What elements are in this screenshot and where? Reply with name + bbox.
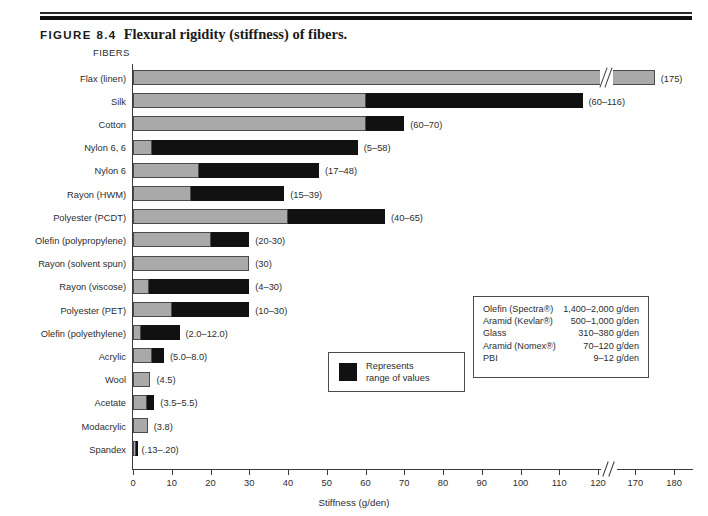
bar-category-label: Spandex [89,445,126,455]
bar-track [133,418,148,433]
bar-row: Flax (linen)(175) [133,67,693,90]
bar-break-icon [600,68,613,87]
bar-segment-base [133,93,366,108]
bar-track [133,209,385,224]
bar-segment-base [133,418,148,433]
x-axis-tick-label: 50 [322,478,332,488]
table-cell-value: 70–120 g/den [559,340,639,352]
x-axis-tick [674,469,675,475]
bar-segment-range [199,163,319,178]
bar-category-label: Acrylic [99,352,126,362]
bar-category-label: Nylon 6, 6 [84,143,126,153]
bar-segment-range [147,395,155,410]
bar-segment-base [133,302,172,317]
table-cell-name: Aramid (Kevlar®) [483,315,559,327]
bar-segment-range [191,186,284,201]
bar-track [133,163,319,178]
bar-segment-range [136,441,138,456]
bar-category-label: Olefin (polyethylene) [41,329,126,339]
table-cell-name: PBI [483,352,559,364]
x-axis-tick-label: 180 [666,478,682,488]
bar-category-label: Rayon (HWM) [67,190,126,200]
bar-track [133,395,154,410]
bar-track [133,70,655,85]
legend-box: Represents range of values [328,352,465,392]
bar-row: Polyester (PCDT)(40–65) [133,206,693,229]
bar-value-label: (17–48) [325,166,357,176]
bar-value-label: (20-30) [255,236,285,246]
bar-value-label: (4.5) [156,375,175,385]
x-axis-tick-label: 110 [552,478,567,488]
table-cell-value: 1,400–2,000 g/den [559,303,639,315]
x-axis-tick [249,469,250,475]
bar-segment-range [172,302,250,317]
bar-row: Cotton(60–70) [133,113,693,136]
bar-segment-base [133,232,211,247]
x-axis-tick [172,469,173,475]
table-row: Glass310–380 g/den [483,327,639,339]
bar-row: Rayon (solvent spun)(30) [133,253,693,276]
bar-segment-base [133,209,288,224]
bar-value-label: (10–30) [255,306,287,316]
bar-row: Olefin (polypropylene)(20-30) [133,229,693,252]
table-cell-value: 310–380 g/den [559,327,639,339]
bar-category-label: Nylon 6 [94,166,126,176]
legend-text: Represents range of values [366,360,430,384]
table-cell-value: 500–1,000 g/den [559,315,639,327]
bar-category-label: Acetate [94,398,126,408]
bar-row: Rayon (HWM)(15–39) [133,183,693,206]
bar-segment-range [152,140,357,155]
bar-category-label: Rayon (solvent spun) [38,259,126,269]
legend-line-1: Represents [366,360,430,372]
bar-category-label: Silk [111,97,126,107]
bar-track [133,441,136,456]
bar-value-label: (30) [255,259,272,269]
x-axis-tick [288,469,289,475]
x-axis-tick-label: 120 [590,478,606,488]
x-axis-break-icon [601,460,617,479]
bar-value-label: (175) [661,74,683,84]
bar-segment-range [152,348,164,363]
x-axis-tick [211,469,212,475]
bar-value-label: (.13–.20) [142,445,179,455]
bar-value-label: (40–65) [391,213,423,223]
x-axis-tick-label: 70 [399,478,409,488]
bar-value-label: (60–70) [410,120,442,130]
table-cell-value: 9–12 g/den [559,352,639,364]
bar-segment-range [366,116,405,131]
bar-track [133,140,358,155]
x-axis-tick [598,469,599,475]
x-axis-tick [133,469,134,475]
bar-segment-base [133,279,149,294]
bar-value-label: (3.5–5.5) [160,398,197,408]
legend-swatch-range [339,363,357,381]
bar-value-label: (5–58) [364,143,391,153]
bar-segment-base [133,325,141,340]
bar-track [133,372,150,387]
bar-value-label: (5.0–8.0) [170,352,207,362]
bar-track [133,256,249,271]
bar-category-label: Polyester (PET) [60,306,126,316]
x-axis-tick-label: 100 [513,478,529,488]
bar-row: Acetate(3.5–5.5) [133,392,693,415]
bar-category-label: Cotton [99,120,126,130]
bar-segment-base [133,140,152,155]
x-axis-tick-label: 20 [205,478,215,488]
bar-row: Modacrylic(3.8) [133,415,693,438]
x-axis-tick-label: 170 [628,478,644,488]
table-row: Aramid (Nomex®)70–120 g/den [483,340,639,352]
bar-track [133,279,249,294]
x-axis-tick [635,469,636,475]
bar-segment-base [133,163,199,178]
bar-track [133,116,404,131]
bar-segment-base [133,116,366,131]
bar-track [133,232,249,247]
bar-category-label: Flax (linen) [80,74,126,84]
bar-segment-base [133,186,191,201]
x-axis-tick [521,469,522,475]
bar-track [133,302,249,317]
bar-category-label: Wool [105,375,126,385]
x-axis-tick [443,469,444,475]
bar-category-label: Rayon (viscose) [59,282,126,292]
x-axis-tick-label: 90 [477,478,487,488]
